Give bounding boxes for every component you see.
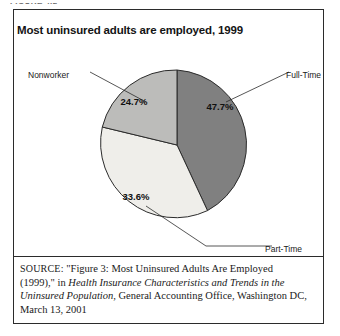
source-divider [14,256,323,257]
slice-value-fulltime: 47.7% [207,101,234,112]
pie-chart: 47.7% 33.6% 24.7% [14,10,326,260]
slice-value-parttime: 33.6% [123,191,150,202]
callout-label-fulltime: Full-Time [286,70,321,80]
slice-value-nonworker: 24.7% [121,96,148,107]
figure-number-label: FIGURE 4.2 [10,0,58,6]
leader-line-fulltime [226,72,289,102]
source-prefix: SOURCE: [20,263,64,274]
callout-label-parttime: Part-Time [265,244,302,254]
source-note: SOURCE: "Figure 3: Most Uninsured Adults… [20,262,310,316]
callout-label-nonworker: Nonworker [28,70,69,80]
